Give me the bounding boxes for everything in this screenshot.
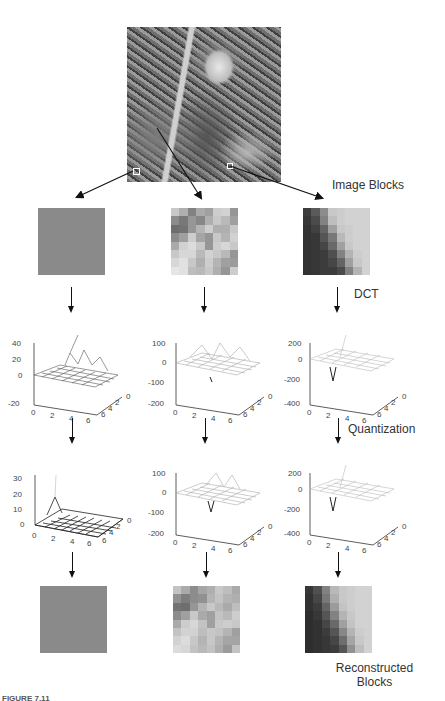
quantization-label: Quantization (348, 422, 415, 436)
block-pixel (337, 233, 345, 241)
block-pixel (364, 586, 372, 594)
block-pixel (181, 603, 189, 611)
block-pixel (320, 242, 328, 250)
svg-text:30: 30 (13, 474, 22, 483)
block-pixel (215, 620, 223, 628)
block-pixel (198, 628, 206, 636)
svg-text:200: 200 (288, 469, 302, 478)
block-pixel (196, 225, 204, 233)
block-pixel (328, 233, 336, 241)
svg-text:-200: -200 (148, 399, 165, 408)
block-pixel (303, 267, 311, 275)
block-pixel (305, 594, 313, 602)
svg-text:2: 2 (115, 398, 120, 407)
block-pixel (313, 620, 321, 628)
svg-text:-200: -200 (148, 529, 165, 538)
block-pixel (230, 242, 238, 250)
image-block-textured (171, 208, 238, 275)
block-pixel (221, 267, 229, 275)
block-pixel (205, 216, 213, 224)
image-block-edge (303, 208, 370, 275)
block-pixel (230, 267, 238, 275)
svg-text:200: 200 (288, 339, 302, 348)
block-pixel (330, 586, 338, 594)
block-pixel (355, 636, 363, 644)
block-pixel (362, 233, 370, 241)
block-pixel (311, 233, 319, 241)
arrow-down (204, 287, 205, 307)
reconstructed-label-line1: Reconstructed (332, 661, 417, 675)
block-pixel (305, 586, 313, 594)
svg-text:0: 0 (173, 538, 178, 547)
svg-text:6: 6 (362, 546, 367, 555)
svg-text:20: 20 (12, 355, 21, 364)
block-pixel (181, 620, 189, 628)
block-pixel (353, 208, 361, 216)
svg-text:-200: -200 (284, 375, 301, 384)
block-pixel (328, 267, 336, 275)
block-pixel (303, 225, 311, 233)
block-pixel (230, 208, 238, 216)
block-pixel (364, 645, 372, 653)
block-pixel (171, 208, 179, 216)
block-pixel (339, 620, 347, 628)
svg-text:4: 4 (384, 534, 389, 543)
block-pixel (196, 233, 204, 241)
block-pixel (345, 216, 353, 224)
block-pixel (303, 216, 311, 224)
block-pixel (355, 586, 363, 594)
block-pixel (320, 233, 328, 241)
block-pixel (353, 216, 361, 224)
svg-text:0: 0 (173, 408, 178, 417)
block-pixel (223, 586, 231, 594)
block-pixel (353, 225, 361, 233)
block-pixel (313, 594, 321, 602)
block-pixel (330, 603, 338, 611)
svg-text:-100: -100 (148, 508, 165, 517)
block-pixel (362, 208, 370, 216)
block-pixel (213, 242, 221, 250)
svg-text:0: 0 (31, 408, 36, 417)
block-pixel (232, 645, 240, 653)
block-pixel (322, 628, 330, 636)
block-pixel (179, 216, 187, 224)
block-pixel (188, 233, 196, 241)
block-pixel (205, 233, 213, 241)
svg-text:2: 2 (391, 398, 396, 407)
block-pixel (330, 620, 338, 628)
block-pixel (339, 594, 347, 602)
block-pixel (328, 250, 336, 258)
block-pixel (364, 594, 372, 602)
block-pixel (221, 250, 229, 258)
svg-text:2: 2 (326, 411, 331, 420)
svg-text:6: 6 (87, 539, 92, 548)
block-pixel (347, 594, 355, 602)
block-pixel (355, 645, 363, 653)
reconstructed-block-edge (305, 586, 372, 653)
block-pixel (305, 620, 313, 628)
block-pixel (171, 225, 179, 233)
block-pixel (232, 594, 240, 602)
block-pixel (364, 620, 372, 628)
block-pixel (205, 208, 213, 216)
svg-text:6: 6 (228, 416, 233, 425)
block-pixel (328, 216, 336, 224)
block-pixel (311, 208, 319, 216)
block-pixel (173, 636, 181, 644)
svg-text:-400: -400 (284, 399, 301, 408)
block-pixel (313, 645, 321, 653)
block-pixel (337, 267, 345, 275)
block-pixel (362, 216, 370, 224)
block-pixel (353, 242, 361, 250)
block-pixel (221, 208, 229, 216)
block-pixel (322, 620, 330, 628)
block-pixel (322, 645, 330, 653)
block-pixel (207, 636, 215, 644)
block-pixel (207, 628, 215, 636)
svg-text:-400: -400 (284, 529, 301, 538)
block-pixel (207, 603, 215, 611)
block-pixel (355, 620, 363, 628)
block-pixel (232, 620, 240, 628)
block-pixel (215, 586, 223, 594)
arrow-down (338, 418, 339, 438)
